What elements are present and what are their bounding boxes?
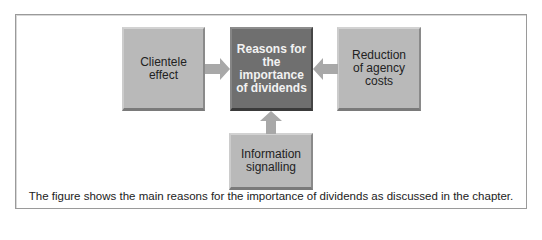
agency-costs-box: Reduction of agency costs xyxy=(337,27,421,111)
figure-caption: The figure shows the main reasons for th… xyxy=(0,190,542,202)
agency-costs-label: Reduction of agency costs xyxy=(348,49,410,88)
arrow-right-icon xyxy=(205,57,231,81)
information-signalling-label: Information signalling xyxy=(233,148,309,174)
clientele-effect-box: Clientele effect xyxy=(122,27,205,111)
arrow-left-icon xyxy=(312,57,338,81)
clientele-effect-label: Clientele effect xyxy=(134,56,194,82)
information-signalling-box: Information signalling xyxy=(229,133,313,190)
central-reasons-label: Reasons for the importance of dividends xyxy=(234,43,310,95)
central-reasons-box: Reasons for the importance of dividends xyxy=(230,27,313,111)
arrow-up-icon xyxy=(259,111,283,134)
